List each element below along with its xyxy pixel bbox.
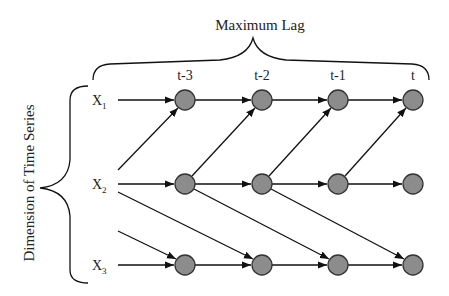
node-x2-t [403, 174, 423, 194]
svg-text:3: 3 [102, 266, 107, 276]
node-x2-t-3 [175, 174, 195, 194]
left-brace [40, 86, 88, 283]
col-label-t: t [411, 68, 415, 83]
row-label-x1: X 1 [92, 93, 107, 111]
svg-text:X: X [92, 177, 102, 192]
col-label-t-3: t-3 [177, 68, 193, 83]
node-x2-t-2 [252, 174, 272, 194]
node-x1-t-2 [252, 90, 272, 110]
col-label-t-2: t-2 [254, 68, 270, 83]
dimension-label: Dimension of Time Series [21, 104, 37, 261]
svg-text:X: X [92, 93, 102, 108]
node-x3-t-3 [175, 255, 195, 275]
node-x3-t-1 [328, 255, 348, 275]
svg-text:1: 1 [102, 101, 107, 111]
node-x1-t-1 [328, 90, 348, 110]
lag-diagram: Maximum Lag Dimension of Time Series t-3… [0, 0, 449, 296]
node-x2-t-1 [328, 174, 348, 194]
node-x1-t [403, 90, 423, 110]
node-x3-t [403, 255, 423, 275]
nodes [175, 90, 423, 275]
row-label-x2: X 2 [92, 177, 107, 195]
row-label-x3: X 3 [92, 258, 107, 276]
max-lag-title: Maximum Lag [215, 17, 305, 33]
col-label-t-1: t-1 [330, 68, 346, 83]
node-x1-t-3 [175, 90, 195, 110]
svg-text:2: 2 [102, 185, 107, 195]
svg-text:X: X [92, 258, 102, 273]
node-x3-t-2 [252, 255, 272, 275]
